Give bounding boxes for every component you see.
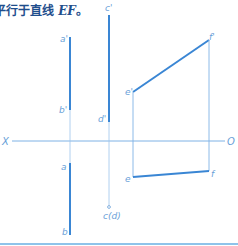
- label-f-prime: f': [209, 32, 215, 42]
- axis-label-x: X: [1, 136, 10, 147]
- line-e-prime-f-prime: [133, 40, 209, 92]
- label-a: a: [61, 162, 67, 172]
- label-e: e: [125, 174, 131, 184]
- label-e-prime: e': [125, 87, 133, 97]
- line-ef: [133, 171, 209, 177]
- bottom-divider: [0, 243, 238, 245]
- label-d-prime: d': [98, 114, 106, 124]
- label-f: f: [211, 169, 216, 179]
- label-a-prime: a': [60, 34, 68, 44]
- label-b-prime: b': [59, 105, 67, 115]
- projection-diagram: X O a' b' a b c' d' c(d) e' f' e f: [0, 0, 238, 246]
- point-cd: [108, 206, 111, 209]
- label-b: b: [62, 227, 68, 237]
- label-cd: c(d): [103, 211, 121, 221]
- label-c-prime: c': [105, 3, 112, 13]
- axis-label-o: O: [227, 136, 235, 147]
